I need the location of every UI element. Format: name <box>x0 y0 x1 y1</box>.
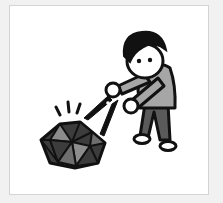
eye-left <box>137 59 141 63</box>
head <box>124 32 166 78</box>
rock <box>41 122 105 168</box>
impact-lines-icon <box>56 102 80 115</box>
eye-right <box>148 58 152 62</box>
pictogram-person-cutting-rock <box>0 0 223 203</box>
